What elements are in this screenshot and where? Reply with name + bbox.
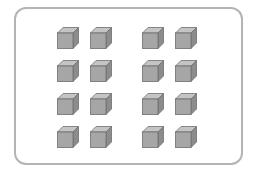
- cube-icon: [142, 126, 164, 148]
- cube-icon: [175, 60, 197, 82]
- cube-icon: [57, 60, 79, 82]
- cube-icon: [57, 93, 79, 115]
- cube-icon: [57, 126, 79, 148]
- cube-icon: [90, 126, 112, 148]
- cube-icon: [175, 27, 197, 49]
- cube-icon: [142, 60, 164, 82]
- cube-icon: [175, 126, 197, 148]
- cube-icon: [90, 27, 112, 49]
- cube-icon: [57, 27, 79, 49]
- cube-icon: [90, 93, 112, 115]
- rounded-frame: [14, 7, 243, 165]
- cube-icon: [175, 93, 197, 115]
- cube-icon: [142, 27, 164, 49]
- cube-icon: [90, 60, 112, 82]
- cube-icon: [142, 93, 164, 115]
